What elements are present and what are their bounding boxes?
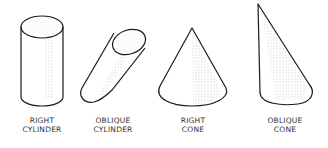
label-line: CONE — [158, 125, 228, 134]
oblique-cone-label: OBLIQUE CONE — [250, 116, 320, 134]
oblique-cylinder-shape — [81, 25, 149, 102]
right-cone-shape — [159, 28, 227, 106]
oblique-cone-shape — [258, 4, 312, 105]
label-line: OBLIQUE — [250, 116, 320, 125]
label-line: RIGHT — [158, 116, 228, 125]
label-line: CYLINDER — [78, 125, 148, 134]
label-line: RIGHT — [7, 116, 77, 125]
right-cylinder-label: RIGHT CYLINDER — [7, 116, 77, 134]
right-cylinder-shape — [21, 16, 63, 106]
right-cone-label: RIGHT CONE — [158, 116, 228, 134]
label-line: OBLIQUE — [78, 116, 148, 125]
oblique-cylinder-label: OBLIQUE CYLINDER — [78, 116, 148, 134]
label-line: CYLINDER — [7, 125, 77, 134]
label-line: CONE — [250, 125, 320, 134]
